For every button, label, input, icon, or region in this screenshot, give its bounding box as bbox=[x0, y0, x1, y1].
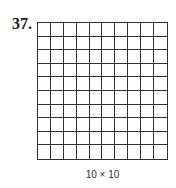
grid-cell bbox=[128, 23, 141, 37]
grid-cell bbox=[154, 145, 167, 159]
grid-cell bbox=[77, 50, 90, 64]
grid-cell bbox=[77, 91, 90, 105]
grid-cell bbox=[102, 132, 115, 146]
grid-cell bbox=[141, 132, 154, 146]
grid-cell bbox=[128, 91, 141, 105]
grid-cell bbox=[128, 105, 141, 119]
grid-cell bbox=[115, 105, 128, 119]
grid-cell bbox=[51, 118, 64, 132]
grid-cell bbox=[64, 50, 77, 64]
grid-cell bbox=[102, 64, 115, 78]
grid-cell bbox=[64, 64, 77, 78]
grid-cell bbox=[141, 64, 154, 78]
grid-cell bbox=[154, 132, 167, 146]
grid-cell bbox=[64, 23, 77, 37]
grid-cell bbox=[77, 23, 90, 37]
grid-cell bbox=[102, 145, 115, 159]
grid-cell bbox=[77, 132, 90, 146]
grid-cell bbox=[38, 91, 51, 105]
grid-cell bbox=[64, 118, 77, 132]
grid-cell bbox=[141, 118, 154, 132]
grid-cell bbox=[51, 77, 64, 91]
grid-cell bbox=[102, 50, 115, 64]
grid-cell bbox=[77, 37, 90, 51]
grid-cell bbox=[90, 118, 103, 132]
grid-cell bbox=[102, 37, 115, 51]
grid-cell bbox=[154, 77, 167, 91]
grid-cell bbox=[128, 77, 141, 91]
grid-cell bbox=[77, 145, 90, 159]
grid-cell bbox=[154, 118, 167, 132]
grid-cell bbox=[64, 77, 77, 91]
grid-cell bbox=[141, 23, 154, 37]
grid-cell bbox=[102, 118, 115, 132]
grid-cell bbox=[115, 91, 128, 105]
grid-cell bbox=[51, 64, 64, 78]
grid-cell bbox=[90, 37, 103, 51]
grid-cell bbox=[51, 23, 64, 37]
grid-cell bbox=[90, 132, 103, 146]
grid-cell bbox=[128, 37, 141, 51]
grid-cell bbox=[64, 91, 77, 105]
grid-cell bbox=[90, 50, 103, 64]
grid-cell bbox=[38, 118, 51, 132]
grid-cell bbox=[154, 23, 167, 37]
grid-cell bbox=[90, 145, 103, 159]
grid-cell bbox=[115, 77, 128, 91]
grid-cell bbox=[128, 64, 141, 78]
grid-cell bbox=[38, 23, 51, 37]
grid-cell bbox=[115, 64, 128, 78]
grid-cell bbox=[64, 105, 77, 119]
grid-cell bbox=[154, 64, 167, 78]
grid-cell bbox=[102, 91, 115, 105]
grid-cell bbox=[64, 145, 77, 159]
grid-cell bbox=[115, 23, 128, 37]
grid-cell bbox=[115, 132, 128, 146]
grid-cell bbox=[38, 77, 51, 91]
grid-cell bbox=[141, 145, 154, 159]
grid-cell bbox=[38, 64, 51, 78]
grid-cell bbox=[38, 105, 51, 119]
grid-cell bbox=[51, 50, 64, 64]
grid-cell bbox=[64, 37, 77, 51]
grid-cell bbox=[90, 64, 103, 78]
grid-cell bbox=[77, 105, 90, 119]
grid-cell bbox=[51, 132, 64, 146]
grid-cell bbox=[128, 50, 141, 64]
grid-cell bbox=[102, 105, 115, 119]
grid-cell bbox=[102, 77, 115, 91]
grid-cell bbox=[154, 50, 167, 64]
grid-cell bbox=[141, 50, 154, 64]
problem-number: 37. bbox=[12, 16, 32, 32]
grid-cell bbox=[115, 118, 128, 132]
grid-cell bbox=[141, 77, 154, 91]
grid-cell bbox=[141, 105, 154, 119]
grid-cell bbox=[38, 37, 51, 51]
grid-cell bbox=[77, 77, 90, 91]
grid-caption: 10 × 10 bbox=[37, 169, 168, 180]
grid-cell bbox=[51, 37, 64, 51]
grid-cell bbox=[64, 132, 77, 146]
grid-cell bbox=[38, 145, 51, 159]
grid-cell bbox=[77, 118, 90, 132]
grid-cell bbox=[51, 145, 64, 159]
grid-cell bbox=[102, 23, 115, 37]
grid-cell bbox=[128, 145, 141, 159]
grid-cell bbox=[141, 91, 154, 105]
grid-cell bbox=[115, 37, 128, 51]
grid-cell bbox=[115, 145, 128, 159]
grid-cell bbox=[51, 105, 64, 119]
grid-cell bbox=[115, 50, 128, 64]
grid-cell bbox=[90, 23, 103, 37]
grid-cell bbox=[128, 118, 141, 132]
grid-cell bbox=[141, 37, 154, 51]
grid-cell bbox=[90, 77, 103, 91]
grid-cell bbox=[38, 50, 51, 64]
ten-by-ten-grid bbox=[37, 22, 168, 160]
grid-cell bbox=[77, 64, 90, 78]
grid-cell bbox=[154, 105, 167, 119]
grid-cell bbox=[154, 91, 167, 105]
grid-cell bbox=[128, 132, 141, 146]
grid-cell bbox=[154, 37, 167, 51]
grid-cell bbox=[90, 105, 103, 119]
